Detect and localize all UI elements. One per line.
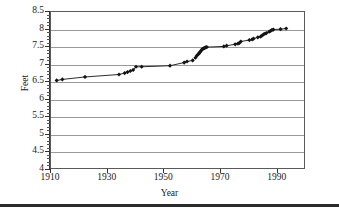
data-point-marker bbox=[60, 77, 64, 81]
y-tick-label: 5 bbox=[18, 129, 44, 139]
chart-figure: Feet 44.555.566.577.588.5 19101930195019… bbox=[0, 0, 339, 217]
x-tick-label: 1910 bbox=[30, 172, 70, 182]
data-point-marker bbox=[284, 26, 288, 30]
y-tick-label: 5.5 bbox=[18, 111, 44, 121]
series-markers bbox=[55, 26, 289, 82]
y-tick-label: 7.5 bbox=[18, 41, 44, 51]
data-point-marker bbox=[140, 65, 144, 69]
data-point-marker bbox=[55, 78, 59, 82]
data-point-marker bbox=[278, 27, 282, 31]
y-tick-label: 8 bbox=[18, 24, 44, 34]
data-point-marker bbox=[168, 64, 172, 68]
y-tick-label: 7 bbox=[18, 59, 44, 69]
data-point-marker bbox=[117, 72, 121, 76]
bottom-rule bbox=[0, 204, 339, 207]
y-tick-label: 6 bbox=[18, 94, 44, 104]
x-tick-label: 1990 bbox=[257, 172, 297, 182]
y-tick-label: 8.5 bbox=[18, 6, 44, 16]
x-tick-label: 1970 bbox=[200, 172, 240, 182]
x-tick-label: 1950 bbox=[143, 172, 183, 182]
data-point-marker bbox=[225, 44, 229, 48]
y-tick-label: 6.5 bbox=[18, 76, 44, 86]
data-series-layer bbox=[51, 12, 306, 170]
data-point-marker bbox=[83, 75, 87, 79]
x-tick-label: 1930 bbox=[87, 172, 127, 182]
plot-area bbox=[50, 11, 305, 169]
series-line bbox=[57, 29, 286, 81]
y-tick-label: 4.5 bbox=[18, 146, 44, 156]
x-axis-title: Year bbox=[0, 188, 339, 198]
